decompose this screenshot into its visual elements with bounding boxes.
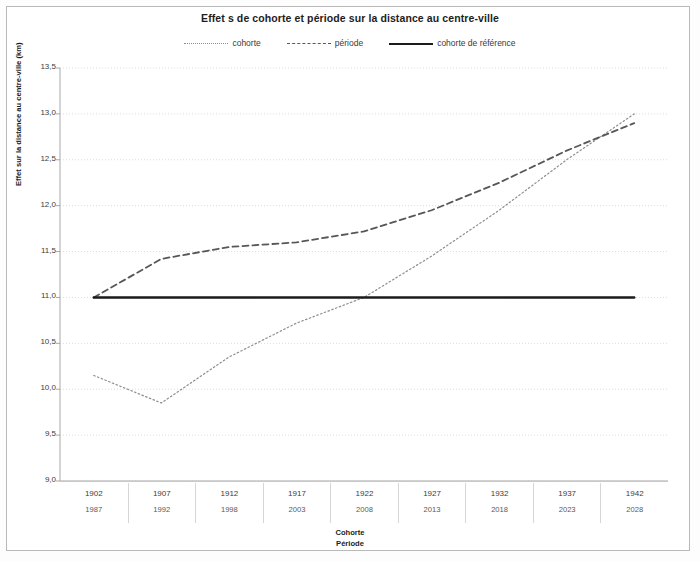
- x-axis-tick-group: 19021987: [60, 483, 128, 523]
- x-axis-label-periode: 2013: [424, 503, 441, 516]
- x-axis-tick-group: 19172003: [263, 483, 331, 523]
- plot-area: [0, 0, 700, 561]
- x-axis-label-periode: 2028: [626, 503, 643, 516]
- x-axis-label-periode: 1987: [85, 503, 102, 516]
- x-axis-label-periode: 2003: [288, 503, 305, 516]
- plot-svg: [0, 0, 700, 561]
- x-axis-tick-group: 19071992: [128, 483, 196, 523]
- series-line-periode: [94, 123, 634, 297]
- x-axis-tick-group: 19222008: [330, 483, 398, 523]
- chart-page: Effet s de cohorte et période sur la dis…: [0, 0, 700, 561]
- gridlines: [60, 68, 668, 481]
- x-axis-label-periode: 1998: [221, 503, 238, 516]
- axis-frame: [56, 68, 668, 481]
- x-axis-label-cohorte: 1942: [626, 487, 644, 500]
- x-axis-label-periode: 1992: [153, 503, 170, 516]
- data-series-layer: [94, 114, 634, 403]
- x-axis-labels: 1902198719071992191219981917200319222008…: [60, 483, 668, 523]
- x-axis-tick-group: 19322018: [465, 483, 533, 523]
- x-axis-label-periode: 2023: [559, 503, 576, 516]
- x-axis-rule: [60, 481, 668, 482]
- x-axis-label-cohorte: 1912: [220, 487, 238, 500]
- x-axis-label-cohorte: 1932: [491, 487, 509, 500]
- x-axis-label-cohorte: 1937: [558, 487, 576, 500]
- x-axis-tick-group: 19121998: [195, 483, 263, 523]
- x-axis-label-periode: 2018: [491, 503, 508, 516]
- x-axis-title-cohorte: Cohorte: [0, 527, 700, 538]
- x-axis-tick-group: 19422028: [600, 483, 668, 523]
- x-axis-label-cohorte: 1917: [288, 487, 306, 500]
- x-axis-tick-group: 19272013: [398, 483, 466, 523]
- x-axis-label-cohorte: 1927: [423, 487, 441, 500]
- x-axis-title: Cohorte Période: [0, 527, 700, 549]
- x-axis-tick-group: 19372023: [533, 483, 601, 523]
- x-axis-label-cohorte: 1922: [356, 487, 374, 500]
- x-axis-title-periode: Période: [0, 538, 700, 549]
- x-axis-label-cohorte: 1907: [153, 487, 171, 500]
- x-axis-label-periode: 2008: [356, 503, 373, 516]
- x-axis-label-cohorte: 1902: [85, 487, 103, 500]
